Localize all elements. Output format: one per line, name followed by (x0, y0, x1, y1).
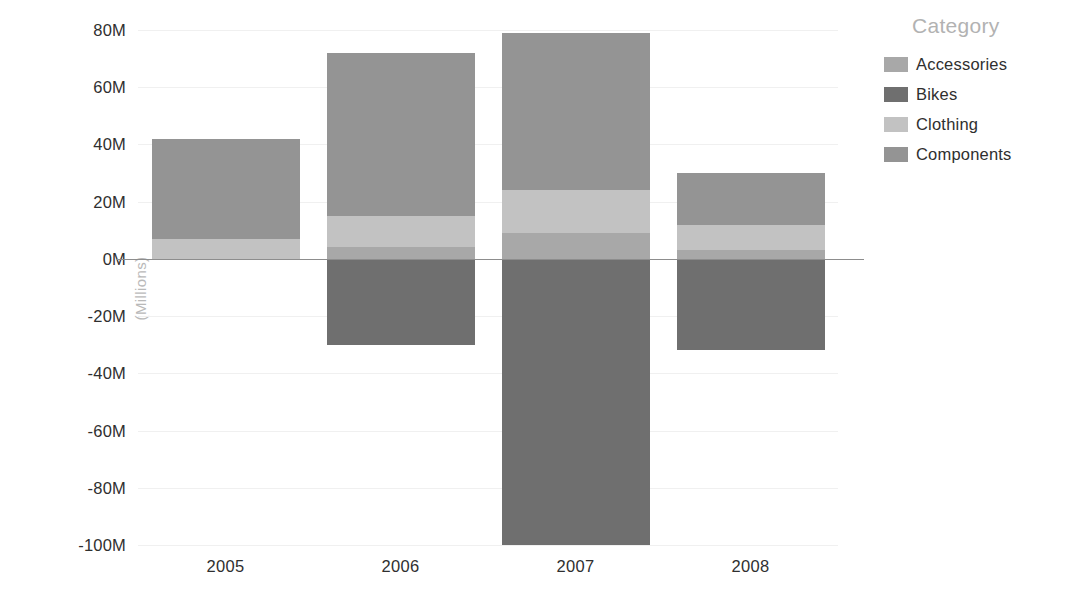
y-axis-tick-label: 80M (93, 21, 126, 40)
legend-item-label: Clothing (916, 115, 978, 134)
legend-title: Category (912, 14, 1064, 38)
y-axis-tick-label: -100M (78, 536, 126, 555)
bar-group[interactable] (152, 30, 300, 545)
legend: Category AccessoriesBikesClothingCompone… (884, 14, 1064, 169)
legend-swatch-icon (884, 87, 908, 102)
legend-item-label: Accessories (916, 55, 1007, 74)
x-axis-tick-label: 2006 (382, 557, 420, 576)
legend-item[interactable]: Accessories (884, 49, 1064, 79)
legend-item-label: Components (916, 145, 1012, 164)
legend-item[interactable]: Clothing (884, 109, 1064, 139)
bar-segment-accessories[interactable] (677, 250, 825, 259)
y-axis-title: (Millions) (132, 159, 149, 419)
bar-segment-clothing[interactable] (152, 239, 300, 259)
bar-segment-components[interactable] (327, 53, 475, 216)
legend-item-label: Bikes (916, 85, 957, 104)
legend-items: AccessoriesBikesClothingComponents (884, 49, 1064, 169)
x-axis-tick-label: 2008 (732, 557, 770, 576)
bar-segment-accessories[interactable] (327, 247, 475, 258)
bar-segment-bikes[interactable] (327, 259, 475, 345)
plot-area: (Millions) 80M60M40M20M0M-20M-40M-60M-80… (138, 30, 838, 545)
legend-item[interactable]: Bikes (884, 79, 1064, 109)
x-axis-tick-label: 2007 (557, 557, 595, 576)
chart-root: (Millions) 80M60M40M20M0M-20M-40M-60M-80… (0, 0, 1066, 607)
y-axis-tick-label: -80M (88, 478, 126, 497)
bar-segment-components[interactable] (677, 173, 825, 225)
y-axis-tick-label: 60M (93, 78, 126, 97)
legend-item[interactable]: Components (884, 139, 1064, 169)
bar-segment-bikes[interactable] (502, 259, 650, 545)
y-axis-tick-label: -60M (88, 421, 126, 440)
bar-segment-components[interactable] (502, 33, 650, 190)
y-axis-tick-label: -40M (88, 364, 126, 383)
bar-segment-clothing[interactable] (677, 225, 825, 251)
y-axis-tick-label: -20M (88, 307, 126, 326)
bar-group[interactable] (677, 30, 825, 545)
legend-swatch-icon (884, 117, 908, 132)
bar-segment-accessories[interactable] (502, 233, 650, 259)
x-axis-tick-label: 2005 (207, 557, 245, 576)
bar-segment-clothing[interactable] (327, 216, 475, 247)
y-axis-tick-label: 40M (93, 135, 126, 154)
legend-swatch-icon (884, 147, 908, 162)
bar-segment-clothing[interactable] (502, 190, 650, 233)
bar-segment-components[interactable] (152, 139, 300, 239)
zero-axis-line (116, 259, 864, 260)
bar-segment-bikes[interactable] (677, 259, 825, 351)
legend-swatch-icon (884, 57, 908, 72)
bar-group[interactable] (327, 30, 475, 545)
bar-group[interactable] (502, 30, 650, 545)
gridline (138, 545, 838, 546)
y-axis-tick-label: 20M (93, 192, 126, 211)
